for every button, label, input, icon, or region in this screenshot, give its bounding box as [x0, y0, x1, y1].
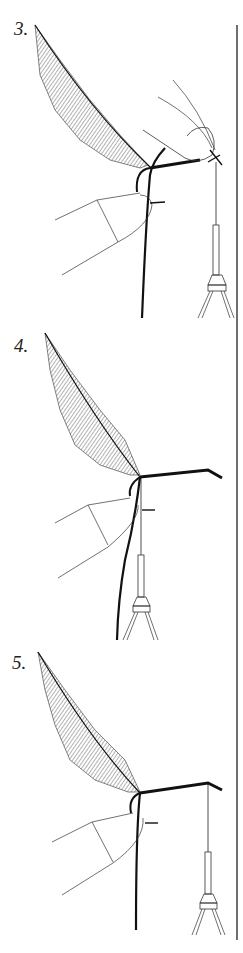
step-4-drawing [45, 333, 222, 640]
step-5-drawing [38, 652, 225, 935]
fly-tying-illustration: 3. 4. 5. [0, 0, 243, 953]
step-3-drawing [35, 25, 234, 318]
illustration-canvas [0, 0, 243, 953]
